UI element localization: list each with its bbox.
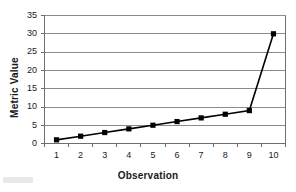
x-tick-label: 2: [70, 150, 92, 160]
line-chart: 35 30 25 20 15 10 5 0 1 2 3 4 5 6 7 8 9 …: [0, 0, 296, 192]
x-tick-label: 8: [214, 150, 236, 160]
data-point-marker: [223, 112, 228, 117]
data-point-marker: [174, 119, 179, 124]
axis-lines: [45, 16, 286, 144]
chart-plot-area: [0, 0, 296, 192]
data-point-marker: [271, 31, 276, 36]
data-point-marker: [150, 123, 155, 128]
data-point-marker: [102, 130, 107, 135]
x-tick-label: 3: [94, 150, 116, 160]
x-tick-label: 5: [142, 150, 164, 160]
data-point-marker: [78, 134, 83, 139]
y-axis-ticks: [41, 16, 45, 144]
data-point-marker: [54, 137, 59, 142]
series-line-metric-value: [57, 34, 274, 140]
x-tick-label: 9: [238, 150, 260, 160]
data-point-marker: [199, 115, 204, 120]
x-axis-ticks: [45, 144, 286, 148]
x-tick-label: 1: [46, 150, 68, 160]
y-axis-title: Metric Value: [9, 38, 20, 138]
scan-artifact-band: [3, 177, 33, 183]
x-tick-label: 6: [166, 150, 188, 160]
y-tick-label: 30: [15, 28, 37, 38]
y-tick-label: 0: [15, 138, 37, 148]
x-tick-label: 10: [262, 150, 284, 160]
y-tick-label: 35: [15, 10, 37, 20]
x-tick-label: 4: [118, 150, 140, 160]
data-point-marker: [126, 126, 131, 131]
data-point-marker: [247, 108, 252, 113]
x-tick-label: 7: [190, 150, 212, 160]
x-axis-title: Observation: [0, 170, 296, 181]
